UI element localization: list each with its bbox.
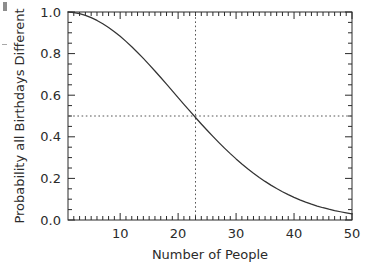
scan-artifact-dash <box>2 44 7 45</box>
y-tick-label: 0.0 <box>40 213 61 228</box>
birthday-problem-chart: 1020304050 1.00.80.60.40.20.0 Number of … <box>0 0 370 265</box>
x-tick-label: 10 <box>112 226 129 241</box>
scan-artifact-mark <box>3 2 7 11</box>
x-tick-label: 40 <box>286 226 303 241</box>
y-axis-title: Probability all Birthdays Different <box>12 8 27 223</box>
x-axis-title: Number of People <box>152 247 268 262</box>
x-tick-label: 20 <box>170 226 187 241</box>
chart-canvas: 1020304050 1.00.80.60.40.20.0 Number of … <box>0 0 370 265</box>
x-tick-label: 30 <box>228 226 245 241</box>
y-tick-label: 1.0 <box>40 5 61 20</box>
y-tick-label: 0.8 <box>40 46 61 61</box>
y-tick-label: 0.4 <box>40 129 61 144</box>
x-tick-label: 50 <box>344 226 361 241</box>
y-tick-label: 0.6 <box>40 88 61 103</box>
y-tick-label: 0.2 <box>40 171 61 186</box>
